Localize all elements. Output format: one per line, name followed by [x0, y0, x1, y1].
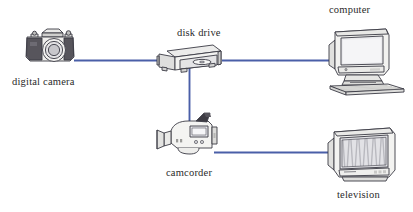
crt-computer-icon [329, 29, 404, 95]
device-television [326, 126, 402, 188]
device-computer [326, 23, 408, 96]
disk-drive-icon [157, 45, 221, 72]
label-camcorder: camcorder [166, 167, 212, 178]
device-camcorder [152, 115, 224, 160]
crt-television-icon [328, 128, 395, 181]
label-digital-camera: digital camera [12, 76, 75, 87]
label-computer: computer [329, 4, 370, 15]
label-television: television [337, 189, 380, 200]
device-digital-camera [22, 27, 78, 69]
diagram-canvas: digital camera [0, 0, 413, 212]
slr-camera-icon [26, 29, 74, 62]
camcorder-icon [157, 113, 217, 154]
label-disk-drive: disk drive [177, 27, 221, 38]
device-disk-drive [157, 43, 223, 78]
